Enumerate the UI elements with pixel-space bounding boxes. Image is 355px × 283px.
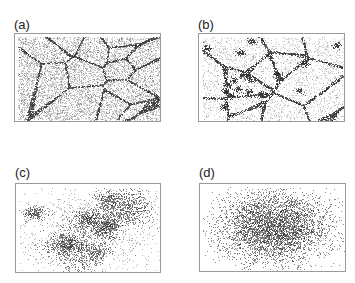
scatter-plot-b <box>198 33 345 122</box>
panel-label-a: (a) <box>14 18 30 31</box>
panel-label-b: (b) <box>198 18 214 31</box>
panel-label-c: (c) <box>15 166 30 179</box>
scatter-plot-a <box>14 33 161 122</box>
scatter-plot-d <box>199 183 346 272</box>
scatter-plot-c <box>15 183 161 273</box>
panel-label-d: (d) <box>199 166 215 179</box>
